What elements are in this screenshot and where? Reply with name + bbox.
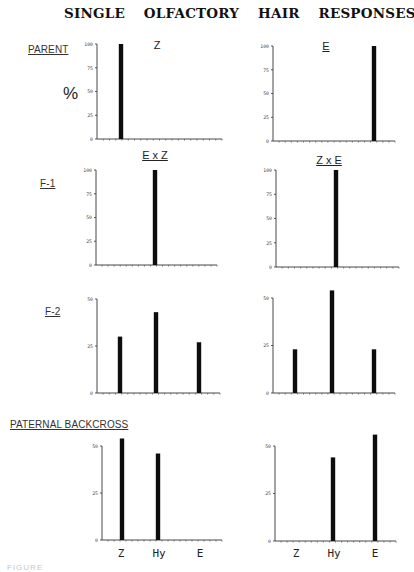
y-tick-label: 50 [265,444,271,449]
y-tick-label: 0 [90,137,93,142]
y-tick-label: 0 [266,139,269,144]
bar-hy [154,312,158,393]
x-label-z-left: Z [118,547,125,560]
x-label-e-right: E [372,547,379,560]
y-tick-label: 75 [87,66,93,71]
bar-e [372,349,376,393]
x-label-z-right: Z [293,547,300,560]
bar-hy [156,454,160,540]
y-tick-label: 50 [87,297,93,302]
bar-hy [334,170,338,267]
y-tick-label: 50 [266,216,272,221]
y-tick-label: 75 [266,192,272,197]
bar-hy [153,170,157,265]
bar-e [197,342,201,393]
y-tick-label: 100 [263,168,272,173]
figure-caption-fragment: FIGURE [7,563,43,572]
y-tick-label: 100 [84,42,93,47]
y-tick-label: 75 [263,68,269,73]
y-tick-label: 25 [266,241,272,246]
chart-parent-z: 0255075100 [84,42,222,142]
x-label-hy-right: Hy [327,547,340,560]
chart-f1-exz: 0255075100 [83,168,217,268]
y-tick-label: 25 [87,344,93,349]
x-label-e-left: E [197,547,204,560]
y-tick-label: 25 [265,491,271,496]
bar-z [293,349,297,393]
chart-f2-left: 02550 [87,297,220,396]
y-tick-label: 50 [263,91,269,96]
chart-f2-right: 02550 [263,290,395,395]
y-tick-label: 0 [89,263,92,268]
y-tick-label: 25 [263,343,269,348]
bar-hy [331,457,335,541]
y-tick-label: 50 [263,296,269,301]
x-label-hy-left: Hy [152,547,165,560]
chart-f1-zxe: 0255075100 [263,168,399,270]
y-tick-label: 0 [95,538,98,543]
y-tick-label: 100 [260,44,269,49]
chart-parent-e: 0255075100 [260,44,395,144]
y-tick-label: 25 [86,239,92,244]
bar-e [372,46,376,141]
y-tick-label: 50 [92,444,98,449]
y-tick-label: 0 [268,539,271,544]
y-tick-label: 0 [90,391,93,396]
y-tick-label: 100 [83,168,92,173]
y-tick-label: 50 [87,89,93,94]
y-tick-label: 0 [266,391,269,396]
chart-backcross-left: 02550 [92,438,222,542]
bar-chart-grid: 0255075100 0255075100 0255075100 0255075… [0,0,414,572]
bar-z [120,438,124,540]
y-tick-label: 25 [263,115,269,120]
bar-hy [330,290,334,393]
y-tick-label: 0 [269,265,272,270]
y-tick-label: 25 [87,113,93,118]
bar-z [118,337,122,393]
y-tick-label: 50 [86,215,92,220]
y-tick-label: 75 [86,192,92,197]
y-tick-label: 25 [92,491,98,496]
chart-backcross-right: 02550 [265,435,396,544]
bar-z [119,44,123,139]
bar-e [373,435,377,541]
